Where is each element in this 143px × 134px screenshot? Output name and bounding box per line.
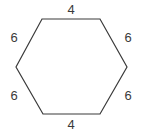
side-label-lower-right: 6: [120, 89, 136, 102]
side-label-upper-left: 6: [6, 31, 22, 44]
side-label-bottom: 4: [63, 118, 79, 131]
hexagon-figure: 4 6 6 4 6 6: [0, 0, 143, 134]
hexagon-outline: [16, 19, 127, 114]
side-label-lower-left: 6: [6, 89, 22, 102]
hexagon-shape: [0, 0, 143, 134]
side-label-upper-right: 6: [120, 31, 136, 44]
side-label-top: 4: [63, 3, 79, 16]
